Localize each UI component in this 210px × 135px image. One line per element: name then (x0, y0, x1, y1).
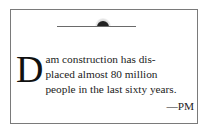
drop-cap: D (16, 54, 43, 84)
ornament-rule (57, 26, 136, 27)
attribution: —PM (166, 100, 194, 112)
quote-text: D am construction has dis- placed almost… (16, 52, 192, 97)
